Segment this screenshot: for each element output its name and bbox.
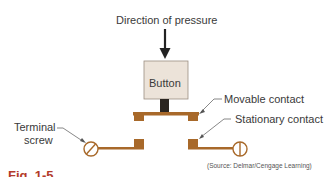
stationary-contacts	[98, 139, 233, 150]
terminal-screw-label-line1: Terminal	[14, 121, 56, 133]
button-label: Button	[149, 77, 181, 89]
pressure-arrow-icon	[160, 29, 171, 59]
figure-caption: Fig. 1-5	[8, 169, 54, 177]
movable-contact	[133, 112, 199, 121]
plunger	[160, 99, 169, 113]
left-terminal-screw-icon	[84, 142, 98, 156]
stationary-contact-label: Stationary contact	[235, 113, 323, 125]
direction-of-pressure-label: Direction of pressure	[116, 14, 218, 26]
right-terminal-screw-icon	[233, 142, 247, 156]
source-credit: (Source: Delmar/Cengage Learning)	[207, 162, 312, 170]
terminal-screw-label-line2: screw	[24, 134, 53, 146]
push-button-diagram: Direction of pressure Button Movable con…	[0, 0, 335, 177]
movable-contact-label: Movable contact	[224, 93, 304, 105]
